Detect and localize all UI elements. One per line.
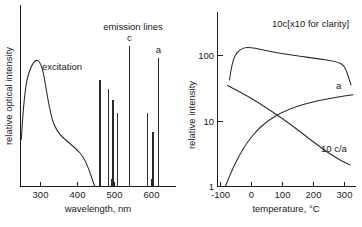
curve-10c bbox=[230, 47, 352, 85]
left-xtick-600: 600 bbox=[144, 189, 160, 200]
right-xtick-0: 0 bbox=[249, 189, 254, 200]
right-xtick-200: 200 bbox=[306, 189, 322, 200]
right-ytick-10: 10 bbox=[203, 116, 214, 127]
left-panel-excitation-emission: 300 400 500 600 wavelength, nm relative … bbox=[0, 0, 181, 227]
right-ytick-100: 100 bbox=[198, 50, 214, 61]
emission-line-c-label: c bbox=[127, 32, 132, 43]
right-panel-svg: 1 10 100 -100 0 100 200 300 temperature,… bbox=[181, 0, 362, 227]
right-xtick-100: 100 bbox=[275, 189, 291, 200]
left-xtick-400: 400 bbox=[70, 189, 86, 200]
figure-container: 300 400 500 600 wavelength, nm relative … bbox=[0, 0, 362, 227]
left-x-ticks bbox=[41, 182, 152, 187]
left-xtick-500: 500 bbox=[107, 189, 123, 200]
left-y-axis-title: relative optical intensity bbox=[3, 47, 14, 145]
excitation-label: excitation bbox=[42, 61, 82, 72]
left-panel-svg: 300 400 500 600 wavelength, nm relative … bbox=[0, 0, 181, 227]
emission-lines-label: emission lines bbox=[103, 21, 163, 32]
left-xtick-300: 300 bbox=[33, 189, 49, 200]
right-x-ticks bbox=[221, 182, 345, 187]
right-x-axis-title: temperature, °C bbox=[252, 203, 319, 214]
right-xtick-minus100: -100 bbox=[211, 189, 230, 200]
right-y-axis-title: relative intensity bbox=[186, 81, 197, 149]
curve-a bbox=[226, 95, 354, 186]
right-axes bbox=[218, 12, 357, 187]
curve-a-label: a bbox=[336, 80, 342, 91]
curve-10c-label: 10c[x10 for clarity] bbox=[272, 18, 349, 29]
emission-line-a-label: a bbox=[156, 44, 162, 55]
emission-lines-group bbox=[99, 46, 158, 187]
curve-10-c-over-a-label: 10 c/a bbox=[321, 143, 348, 154]
left-x-axis-title: wavelength, nm bbox=[64, 203, 132, 214]
right-panel-intensity-vs-temperature: 1 10 100 -100 0 100 200 300 temperature,… bbox=[181, 0, 362, 227]
right-xtick-300: 300 bbox=[337, 189, 353, 200]
excitation-curve bbox=[21, 60, 95, 186]
right-y-ticks bbox=[218, 56, 223, 187]
